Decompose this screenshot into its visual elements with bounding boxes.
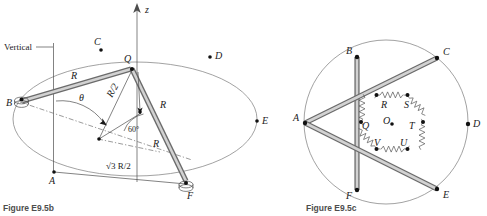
point-D-label-c: D (472, 118, 481, 129)
center-O-label: O (383, 115, 390, 126)
figure-panel: z Vertical θ 60° R R/2 R R (0, 0, 487, 216)
spring-S-T (409, 98, 425, 115)
point-E-label-c: E (442, 189, 449, 200)
hub-label-V: V (374, 137, 382, 148)
rod-AE-fill (305, 123, 437, 189)
figure-e95c: R S T U V Q O B C D E F A Figure E9.5c (0, 0, 487, 216)
point-B-dot-c (355, 55, 359, 59)
point-D-dot-c (466, 122, 470, 126)
hub-point-R-dot (375, 93, 379, 97)
point-C-label-c: C (443, 46, 450, 57)
point-A-dot-c (303, 121, 307, 125)
point-F-label-c: F (345, 190, 353, 201)
hub-label-T: T (409, 120, 416, 131)
point-B-label-c: B (346, 45, 352, 56)
point-C-dot-c (435, 56, 439, 60)
hub-label-U: U (400, 137, 408, 148)
caption-e95c: Figure E9.5c (306, 203, 357, 213)
hub-point-S-dot (406, 93, 410, 97)
hub-label-S: S (404, 99, 409, 110)
spring-T-U (419, 125, 425, 150)
hub-label-Q: Q (362, 120, 370, 131)
spring-V-Q (359, 129, 375, 147)
hub-label-R: R (380, 99, 387, 110)
point-F-dot-c (355, 188, 359, 192)
point-A-label-c: A (292, 112, 300, 123)
hub-point-T-dot (421, 120, 425, 124)
spring-R-S (380, 92, 403, 98)
center-O-dot (390, 122, 394, 126)
point-E-dot-c (435, 187, 439, 191)
